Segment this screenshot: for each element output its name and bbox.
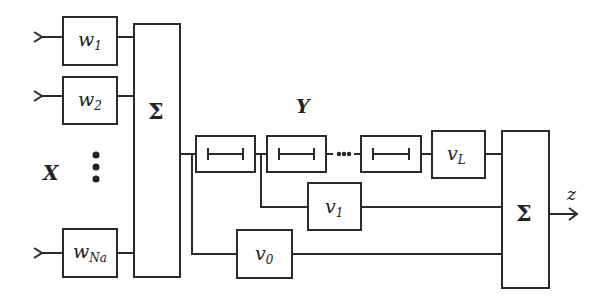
delay-line-label-y: Y — [296, 95, 312, 117]
weight-box-w1: w1 — [63, 17, 117, 65]
output-arrow-icon — [549, 208, 577, 220]
weight-box-wna: wNa — [63, 229, 117, 277]
input-sum-block: Σ — [134, 24, 180, 277]
tap-weight-v1: v1 — [308, 183, 361, 230]
vertical-ellipsis-icon — [93, 152, 100, 183]
svg-text:Σ: Σ — [148, 98, 164, 124]
weight-box-w2: w2 — [63, 77, 117, 124]
output-sum-block: Σ — [502, 131, 549, 288]
input-arrow-na — [34, 248, 63, 258]
svg-text:Σ: Σ — [516, 200, 532, 226]
delay-element-1 — [196, 136, 255, 172]
input-label-x: X — [41, 161, 60, 185]
delay-element-2 — [267, 136, 326, 172]
block-diagram: w1 w2 wNa X Σ — [0, 0, 606, 304]
input-arrow-2 — [34, 91, 63, 101]
input-arrow-1 — [34, 32, 63, 42]
horizontal-ellipsis-icon — [337, 152, 351, 156]
output-label-z: z — [566, 184, 577, 204]
delay-element-3 — [361, 136, 421, 172]
tap-weight-vl: vL — [432, 131, 485, 178]
tap-weight-v0: v0 — [237, 230, 292, 278]
